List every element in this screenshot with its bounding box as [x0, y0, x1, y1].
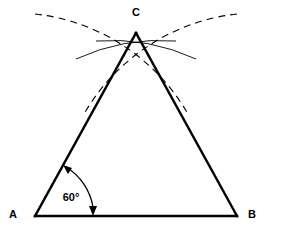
compass-arc-from-b [84, 14, 237, 114]
angle-label-60-degrees: 60° [63, 191, 80, 203]
vertex-label-b: B [248, 208, 256, 220]
geometry-diagram: A B C 60° [0, 0, 282, 234]
angle-arrowhead-upper [63, 165, 72, 174]
compass-arc-from-a [35, 14, 188, 114]
segment-ac [35, 33, 136, 216]
vertex-label-c: C [132, 6, 140, 18]
construction-canvas: A B C 60° [0, 0, 282, 234]
vertex-label-a: A [9, 208, 17, 220]
segment-bc [136, 33, 237, 216]
angle-arrowhead-lower [89, 206, 97, 216]
